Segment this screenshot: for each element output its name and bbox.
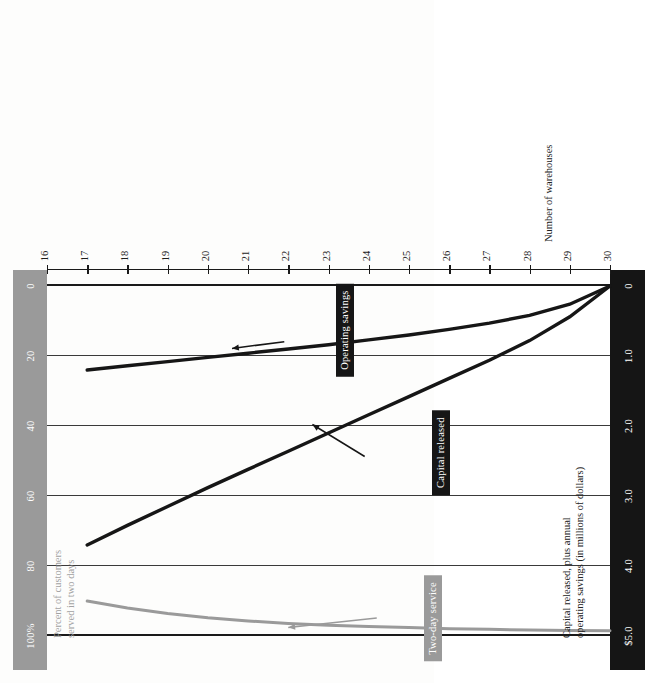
x-tick-label: 28 — [522, 251, 533, 262]
x-tick-label: 27 — [481, 251, 492, 262]
callout-capital-released: Capital released — [432, 410, 450, 495]
callout-two-day-service: Two-day service — [424, 575, 442, 662]
dollars-tick-label: 3.0 — [622, 489, 633, 503]
dollars-tick-label: 0 — [622, 283, 633, 289]
callout-operating-savings: Operating savings — [336, 283, 354, 377]
left-axis-title-line1: Capital released, plus annual — [560, 467, 573, 638]
x-tick-label: 26 — [441, 251, 452, 262]
x-axis-title: Number of warehouses — [542, 145, 555, 242]
x-tick-label: 29 — [562, 251, 573, 262]
x-tick-label: 30 — [602, 251, 613, 262]
x-tick-mark — [610, 265, 611, 274]
right-axis-title-line1: Percent of customers — [51, 550, 64, 638]
dollars-axis-bar: $5.04.03.02.01.00 — [610, 270, 645, 670]
dollars-tick-label: 2.0 — [622, 419, 633, 433]
left-axis-title: Capital released, plus annual operating … — [560, 467, 586, 638]
dollars-tick-label: $5.0 — [622, 626, 633, 646]
dollars-tick-label: 1.0 — [622, 349, 633, 363]
left-axis-title-line2: operating savings (in millions of dollar… — [573, 467, 586, 638]
right-axis-title-line2: served in two days — [64, 550, 77, 638]
right-axis-title: Percent of customers served in two days — [51, 550, 77, 638]
dollars-tick-label: 4.0 — [622, 559, 633, 573]
